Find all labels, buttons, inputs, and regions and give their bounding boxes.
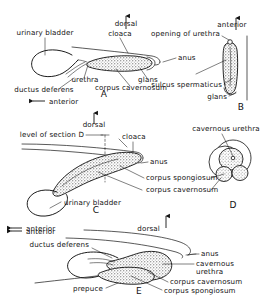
panel-d: cavernous urethra D	[192, 124, 260, 210]
organ-shaft-e	[98, 267, 154, 284]
label-corpus-cavernosum-e: corpus cavernosum	[170, 277, 242, 286]
label-level-of-section-d-c: level of section D	[20, 130, 85, 139]
label-dorsal-e: dorsal	[137, 224, 160, 233]
body-wall-e	[84, 230, 191, 255]
panel-letter-d: D	[229, 200, 236, 210]
label-anus-c: anus	[150, 157, 168, 166]
label-sulcus-spermaticus-b: sulcus spermaticus	[151, 80, 222, 89]
label-urinary-bladder-a: urinary bladder	[17, 28, 74, 37]
corpus-cavernosum-shape-d-right	[232, 166, 248, 181]
label-cloaca-c: cloaca	[122, 132, 146, 141]
bladder-neck-line-a	[78, 60, 87, 62]
panel-letter-b: B	[238, 102, 244, 112]
cavernous-urethra-shape-d	[231, 156, 235, 160]
label-dorsal-c: dorsal	[83, 120, 106, 129]
label-urethra-a: urethra	[71, 75, 98, 84]
label-dorsal-a: dorsal	[115, 19, 138, 28]
figure-canvas: dorsal urinary bladder cloaca anus glans…	[0, 0, 264, 301]
label-glans-b: glans	[207, 92, 227, 101]
label-anterior-b: anterior	[217, 20, 246, 29]
label-cloaca-a: cloaca	[108, 29, 132, 38]
label-ductus-deferens-a: ductus deferens	[14, 85, 74, 94]
label-corpus-spongiosum-c: corpus spongiosum	[146, 173, 218, 182]
urethral-opening-b	[228, 40, 233, 45]
panel-letter-c: C	[93, 205, 100, 215]
anatomy-figure: dorsal urinary bladder cloaca anus glans…	[0, 0, 264, 301]
label-prepuce-e: prepuce	[73, 284, 103, 293]
ductus-deferens-shape-a	[66, 62, 85, 74]
panel-b: anterior opening of urethra sulcus sperm…	[151, 18, 247, 112]
label-corpus-spongiosum-e: corpus spongiosum	[164, 286, 236, 295]
label-anus-e: anus	[201, 249, 219, 258]
urinary-bladder-shape-a	[32, 50, 78, 77]
panel-c: dorsal level of section D cloaca anus co…	[11, 113, 218, 236]
label-corpus-cavernosum-c: corpus cavernosum	[146, 185, 218, 194]
label-anus-a: anus	[178, 53, 196, 62]
label-urethra-e: urethra	[196, 267, 223, 276]
panel-letter-a: A	[101, 89, 108, 99]
label-anterior-a: anterior	[49, 97, 78, 106]
panel-e: anterior dorsal ductus deferens anus cav…	[11, 216, 242, 296]
label-opening-of-urethra-b: opening of urethra	[151, 29, 220, 38]
label-anterior-e: anterior	[26, 224, 55, 233]
organ-body-a	[87, 56, 152, 72]
cloaca-outline-a2	[155, 62, 160, 65]
organ-body-c	[53, 152, 141, 196]
label-cavernous-urethra-d: cavernous urethra	[192, 124, 260, 133]
label-ductus-deferens-e: ductus deferens	[30, 240, 90, 249]
panel-letter-e: E	[136, 286, 142, 296]
